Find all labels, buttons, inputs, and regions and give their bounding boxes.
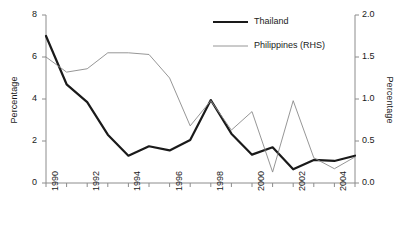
y-axis-left-tick-label: 0 [13, 177, 37, 187]
legend-line-swatches [213, 22, 248, 46]
series-line-thailand [46, 36, 355, 169]
line-chart-plot [0, 0, 410, 235]
y-axis-right-tick-label: 1.0 [362, 93, 388, 103]
x-axis-tick-label: 2000 [256, 171, 266, 191]
x-axis-tick-label: 2002 [297, 171, 307, 191]
data-series-group [46, 36, 355, 172]
x-axis-tick-label: 1990 [50, 171, 60, 191]
x-axis-tick-label: 2004 [338, 171, 348, 191]
y-axis-right-tick-label: 1.5 [362, 51, 388, 61]
y-axis-right-tick-label: 0.5 [362, 135, 388, 145]
y-axis-right-tick-label: 0.0 [362, 177, 388, 187]
y-axis-right-tick-label: 2.0 [362, 9, 388, 19]
y-axis-left-tick-label: 8 [13, 9, 37, 19]
x-axis-tick-label: 1998 [215, 171, 225, 191]
y-axis-left-tick-label: 2 [13, 135, 37, 145]
chart-container: Percentage Percentage 024680.00.51.01.52… [0, 0, 410, 235]
x-axis-tick-label: 1996 [174, 171, 184, 191]
y-axis-left-tick-label: 6 [13, 51, 37, 61]
y-axis-left-tick-label: 4 [13, 93, 37, 103]
x-axis-tick-label: 1994 [132, 171, 142, 191]
series-line-philippines-rhs [46, 53, 355, 172]
x-axis-tick-label: 1992 [91, 171, 101, 191]
legend-label: Thailand [254, 16, 289, 26]
legend-label: Philippines (RHS) [254, 40, 325, 50]
